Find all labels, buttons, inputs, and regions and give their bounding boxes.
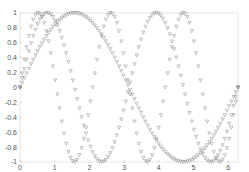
y-tick-label: 0 — [13, 84, 17, 91]
data-point — [177, 65, 180, 68]
data-point — [223, 137, 226, 140]
data-point — [91, 86, 94, 89]
data-point — [223, 154, 226, 157]
data-point — [117, 65, 120, 68]
data-point — [73, 88, 76, 91]
data-point — [124, 65, 127, 68]
x-tick-label: 3 — [122, 164, 126, 171]
data-point — [201, 93, 204, 96]
data-point — [32, 18, 35, 21]
data-point — [142, 116, 145, 119]
data-point — [32, 58, 35, 61]
data-point — [197, 65, 200, 68]
data-point — [170, 40, 173, 43]
data-point — [146, 124, 149, 127]
data-point — [177, 18, 180, 21]
data-point — [186, 16, 189, 19]
data-point — [29, 42, 32, 45]
data-point — [71, 79, 74, 82]
data-point — [89, 100, 92, 103]
data-point — [60, 36, 63, 39]
data-point — [115, 60, 118, 63]
data-point — [27, 67, 30, 70]
data-point — [232, 114, 235, 117]
data-point — [120, 118, 123, 121]
data-point — [111, 147, 114, 150]
data-point — [168, 33, 171, 36]
data-point — [137, 46, 140, 49]
data-point — [56, 24, 59, 27]
data-point — [208, 132, 211, 135]
x-tick-label: 2 — [87, 164, 91, 171]
data-point — [164, 21, 167, 24]
data-point — [23, 58, 26, 61]
data-point — [40, 42, 43, 45]
data-point — [102, 25, 105, 28]
data-point — [225, 109, 228, 112]
data-point — [168, 58, 171, 61]
data-point — [51, 16, 54, 19]
data-point — [80, 116, 83, 119]
data-point — [228, 137, 231, 140]
data-point — [106, 44, 109, 47]
data-point — [140, 150, 143, 153]
data-point — [21, 72, 24, 75]
data-point — [234, 91, 237, 94]
data-point — [146, 20, 149, 23]
data-point — [140, 38, 143, 41]
data-point — [93, 155, 96, 158]
data-point — [38, 18, 41, 21]
x-tick-label: 0 — [18, 164, 22, 171]
data-point — [162, 17, 165, 20]
data-point — [234, 100, 237, 103]
data-point — [60, 120, 63, 123]
data-point — [32, 34, 35, 37]
data-point — [80, 147, 83, 150]
y-tick-label: 1 — [13, 9, 17, 16]
data-point — [225, 130, 228, 133]
data-point — [142, 31, 145, 34]
data-point — [210, 137, 213, 140]
data-point — [135, 132, 138, 135]
data-point — [65, 52, 68, 55]
data-point — [29, 25, 32, 28]
data-point — [82, 137, 85, 140]
data-point — [188, 21, 191, 24]
data-point — [164, 86, 167, 89]
data-point — [203, 107, 206, 110]
data-point — [175, 25, 178, 28]
data-point — [232, 105, 235, 108]
data-point — [21, 76, 24, 79]
data-point — [221, 118, 224, 121]
data-point — [153, 147, 156, 150]
data-point — [192, 40, 195, 43]
data-point — [113, 141, 116, 144]
data-point — [214, 130, 217, 133]
data-point — [117, 126, 120, 129]
data-point — [219, 149, 222, 152]
data-point — [186, 102, 189, 105]
data-point — [148, 128, 151, 131]
data-point — [124, 100, 127, 103]
data-point — [120, 40, 123, 43]
data-point — [166, 27, 169, 30]
data-point — [27, 50, 30, 53]
data-point — [126, 84, 129, 87]
data-point — [38, 46, 41, 49]
series-2 — [18, 11, 239, 163]
data-point — [142, 156, 145, 159]
data-point — [23, 76, 26, 79]
data-point — [184, 93, 187, 96]
data-point — [47, 40, 50, 43]
y-axis: -1-0.8-0.6-0.4-0.200.20.40.60.81 — [5, 9, 22, 165]
data-point — [137, 107, 140, 110]
data-point — [137, 142, 140, 145]
y-tick-label: -0.2 — [5, 99, 17, 106]
data-point — [173, 48, 176, 51]
data-point — [219, 122, 222, 125]
data-point — [195, 52, 198, 55]
data-point — [140, 111, 143, 114]
data-point — [115, 134, 118, 137]
data-point — [135, 102, 138, 105]
data-point — [234, 95, 237, 98]
